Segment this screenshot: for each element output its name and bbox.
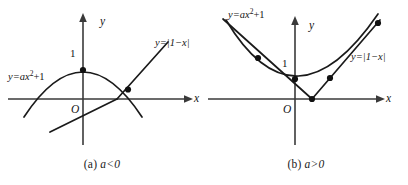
y-tick-one-b: 1 xyxy=(282,58,288,69)
caption-b-condition: a>0 xyxy=(305,158,325,170)
intersection-dot xyxy=(375,20,381,26)
absolute-value-curve-a xyxy=(50,42,168,132)
caption-a-prefix: (a) xyxy=(84,158,100,170)
x-axis-label-a: x xyxy=(194,93,199,105)
origin-label-a: O xyxy=(71,104,79,116)
parabola-label-a: y=ax2+1 xyxy=(8,72,45,83)
parabola-label-b-suffix: +1 xyxy=(253,9,264,20)
origin-label-b: O xyxy=(283,104,291,116)
y-axis-label-a: y xyxy=(100,16,105,28)
caption-b: (b) a>0 xyxy=(204,158,408,170)
caption-b-prefix: (b) xyxy=(288,158,305,170)
caption-a-condition: a<0 xyxy=(100,158,120,170)
intersection-dot xyxy=(80,67,86,73)
y-axis-label-b: y xyxy=(309,20,314,32)
panel-b-plot xyxy=(204,0,408,160)
intersection-dot xyxy=(292,76,298,82)
parabola-label-b: y=ax2+1 xyxy=(228,10,265,21)
vertex-dot xyxy=(309,96,315,102)
absolute-value-label-a: y=|1−x| xyxy=(155,38,190,49)
y-axis-a xyxy=(79,13,87,145)
y-tick-one-a: 1 xyxy=(70,48,76,59)
caption-a: (a) a<0 xyxy=(0,158,204,170)
absolute-value-label-b: y=|1−x| xyxy=(351,52,386,63)
intersection-dot xyxy=(255,55,261,61)
x-axis-label-b: x xyxy=(386,93,391,105)
parabola-label-b-base: y=ax xyxy=(228,9,250,20)
panel-a-negative: y x O 1 y=ax2+1 y=|1−x| (a) a<0 xyxy=(0,0,204,185)
parabola-label-a-suffix: +1 xyxy=(33,71,44,82)
intersection-dot xyxy=(125,86,131,92)
intersection-dot xyxy=(327,75,333,81)
parabola-curve-b xyxy=(226,14,378,76)
panel-b-positive: y x O 1 y=ax2+1 y=|1−x| (b) a>0 xyxy=(204,0,408,185)
parabola-label-a-base: y=ax xyxy=(8,71,30,82)
x-axis-b xyxy=(208,95,385,103)
math-figure: y x O 1 y=ax2+1 y=|1−x| (a) a<0 xyxy=(0,0,408,185)
